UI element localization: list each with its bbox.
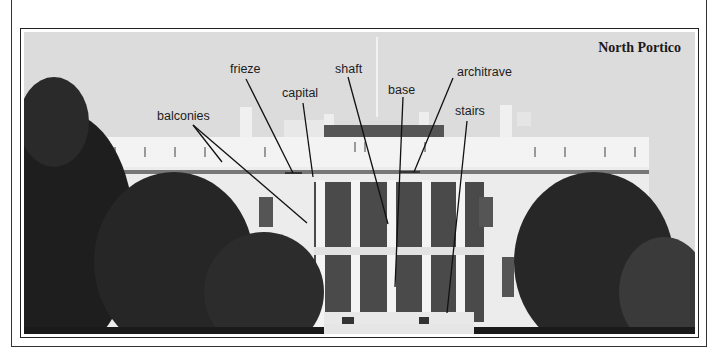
label-shaft: shaft — [335, 63, 362, 75]
label-base: base — [388, 84, 415, 96]
capital-leader — [303, 103, 313, 177]
balconies-leader-2 — [193, 125, 307, 223]
balconies-leader-1 — [193, 125, 222, 162]
shaft-leader — [348, 77, 388, 224]
label-architrave: architrave — [457, 66, 512, 78]
base-leader — [395, 97, 403, 287]
label-balconies: balconies — [157, 110, 210, 122]
figure-caption: North Portico — [598, 40, 681, 56]
label-stairs: stairs — [455, 105, 485, 117]
architrave-leader — [414, 78, 453, 172]
label-capital: capital — [282, 87, 318, 99]
stairs-leader — [447, 121, 467, 313]
label-frieze: frieze — [230, 63, 261, 75]
